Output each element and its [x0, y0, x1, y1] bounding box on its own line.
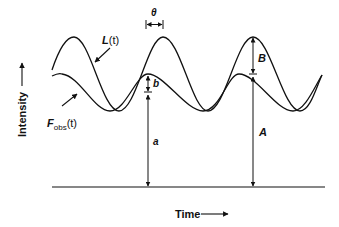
phase-shift-label: θ: [151, 7, 157, 18]
excitation-amplitude-markers: B A: [249, 38, 267, 186]
x-axis-label-group: Time: [175, 208, 228, 220]
excitation-label: L(t): [102, 34, 119, 46]
excitation-pointer: [95, 48, 110, 62]
emission-dc-label: a: [153, 136, 159, 147]
emission-ac-label: b: [153, 78, 159, 89]
y-axis-label: Intensity: [16, 91, 28, 137]
emission-curve: [52, 74, 322, 111]
excitation-ac-label: B: [258, 52, 266, 64]
y-axis-label-group: Intensity: [16, 63, 28, 137]
phase-shift-marker: θ: [146, 7, 163, 29]
phase-modulation-diagram: θ L(t) Fobs(t) b a B A Intensity Time: [0, 0, 339, 227]
excitation-dc-label: A: [258, 126, 267, 138]
emission-label: Fobs(t): [47, 117, 77, 132]
emission-pointer: [62, 94, 77, 106]
emission-amplitude-markers: b a: [144, 76, 159, 186]
x-axis-label: Time: [175, 208, 200, 220]
